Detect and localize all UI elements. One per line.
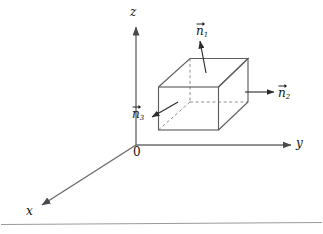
axis-x <box>42 145 136 205</box>
figure-canvas: z y x 0 n1 n2 n3 <box>0 0 323 234</box>
normal-vector-n1-label: n1 <box>196 22 208 39</box>
footer-rule <box>1 223 322 225</box>
n1-subscript: 1 <box>204 31 208 39</box>
normal-vector-n3-arrow <box>152 102 178 117</box>
box-hidden-edge-to-front-left-bottom <box>159 102 191 130</box>
axis-y-label: y <box>296 137 303 149</box>
axis-z-label: z <box>130 6 136 18</box>
n2-symbol-stack: n2 <box>278 84 290 101</box>
n2-subscript: 2 <box>286 93 290 101</box>
normal-vector-n1-arrow <box>200 41 206 73</box>
n3-subscript: 3 <box>140 114 144 122</box>
n2-glyph: n <box>278 86 286 100</box>
axis-x-line <box>42 145 136 205</box>
vector-arrow-overbar-icon <box>278 83 287 88</box>
n1-symbol-stack: n1 <box>196 22 208 39</box>
origin-label: 0 <box>133 146 141 158</box>
box-hidden-edges <box>159 59 249 131</box>
normal-vector-n2-label: n2 <box>278 84 290 101</box>
n3-glyph: n <box>132 107 140 121</box>
box-top-face <box>159 59 249 88</box>
axis-x-label: x <box>26 205 33 217</box>
n1-glyph: n <box>196 24 204 38</box>
n3-symbol-stack: n3 <box>132 105 144 122</box>
box-right-face <box>219 59 249 131</box>
vector-arrow-overbar-icon <box>196 21 205 26</box>
normal-vector-n3-label: n3 <box>132 105 144 122</box>
diagram-svg <box>0 0 323 234</box>
vector-arrow-overbar-icon <box>132 104 141 109</box>
box-visible-edges <box>159 59 249 131</box>
